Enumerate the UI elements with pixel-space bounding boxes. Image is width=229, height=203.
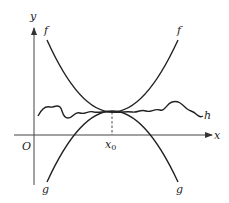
curve-g-left-label: g xyxy=(42,183,49,196)
curve-h-label: h xyxy=(204,109,211,122)
y-axis-label: y xyxy=(29,10,37,23)
x-axis-label: x xyxy=(214,129,221,142)
curve-f-right-label: f xyxy=(176,24,183,37)
squeeze-diagram: y x O x0 f f g g h xyxy=(0,0,229,203)
curve-f-left-label: f xyxy=(43,24,50,37)
curve-h xyxy=(38,101,203,118)
curve-g-right-label: g xyxy=(176,183,183,196)
x0-label: x0 xyxy=(105,138,116,152)
origin-label: O xyxy=(22,140,31,153)
curve-f xyxy=(47,40,178,112)
